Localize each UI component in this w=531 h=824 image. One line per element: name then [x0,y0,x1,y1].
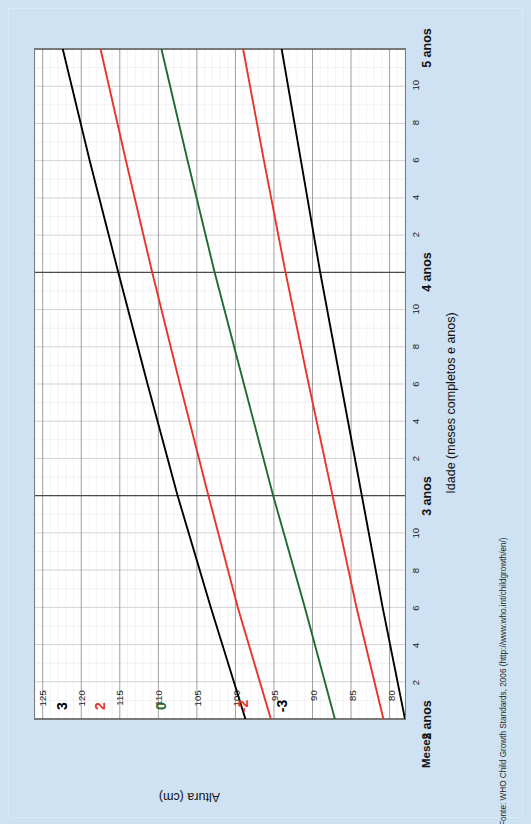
x-axis-month-tick: 2 [410,680,421,685]
y-axis-tick: 105 [191,690,202,730]
plot-area [34,48,406,720]
rotated-figure-wrapper: 1251201151101051009590858024681024681024… [8,8,478,798]
x-axis-month-tick: 8 [410,120,421,125]
y-axis-tick: 80 [385,690,396,730]
curve-label-3: 3 [54,702,70,710]
x-axis-title: Idade (meses completos e anos) [444,8,458,798]
growth-chart-figure: 1251201151101051009590858024681024681024… [8,8,478,798]
x-axis-month-tick: 10 [410,304,421,315]
curve-layer [35,49,405,719]
x-axis-month-tick: 10 [410,528,421,539]
x-axis-month-tick: 2 [410,232,421,237]
x-axis-year-tick: 5 anos [420,28,434,68]
x-axis-month-tick: 2 [410,456,421,461]
curve-label-minus3: -3 [274,700,290,712]
chart-page: 1251201151101051009590858024681024681024… [0,0,531,824]
y-axis-tick: 115 [114,690,125,730]
x-axis-year-tick: 4 anos [420,252,434,292]
curve-label-0: 0 [153,702,169,710]
y-axis-tick: 90 [308,690,319,730]
x-axis-month-tick: 8 [410,344,421,349]
chart-page-inner: 1251201151101051009590858024681024681024… [8,8,523,818]
x-axis-month-tick: 4 [410,419,421,424]
curve-label-2: 2 [92,702,108,710]
x-axis-year-tick: 3 anos [420,476,434,516]
x-axis-month-tick: 10 [410,80,421,91]
x-axis-month-tick: 4 [410,643,421,648]
y-axis-tick: 85 [346,690,357,730]
x-axis-month-tick: 4 [410,195,421,200]
x-axis-month-tick: 8 [410,568,421,573]
x-axis-unit-label: Meses [420,733,432,768]
x-axis-month-tick: 6 [410,605,421,610]
source-note-wrapper: Fonte: WHO Child Growth Standards, 2006 … [497,8,519,824]
y-axis-tick: 120 [75,690,86,730]
x-axis-month-tick: 6 [410,381,421,386]
source-note: Fonte: WHO Child Growth Standards, 2006 … [499,537,508,824]
x-axis-month-tick: 6 [410,157,421,162]
y-axis-title: Altura (cm) [159,790,220,804]
y-axis-tick: 110 [153,690,164,730]
curve-label-minus2: -2 [235,700,251,712]
y-axis-tick: 125 [36,690,47,730]
